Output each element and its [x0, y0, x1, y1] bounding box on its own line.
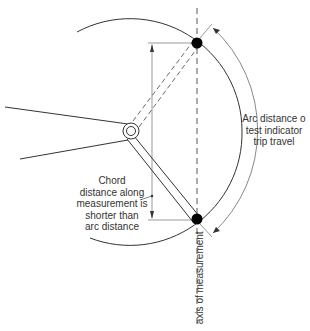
chord-label-line: Chord: [73, 175, 151, 187]
arc-label-line: Arc distance o: [238, 113, 310, 125]
arrowhead-icon: [213, 227, 220, 233]
contact-arm-dashed: [133, 40, 194, 121]
arc-label-line: trip travel: [238, 136, 310, 148]
contact-ball-bottom: [192, 214, 203, 225]
chord-label-line: shorter than: [73, 210, 151, 222]
indicator-body-lower: [20, 140, 128, 159]
arrowhead-icon: [213, 28, 220, 34]
chord-label-line: arc distance: [73, 221, 151, 233]
indicator-body-upper: [5, 107, 128, 124]
indicator-geometry-diagram: [0, 0, 310, 331]
arc-distance-label: Arc distance o test indicator trip trave…: [238, 113, 310, 148]
pivot-inner-icon: [127, 127, 136, 136]
arc-label-line: test indicator: [238, 125, 310, 137]
axis-of-measurement-label: axis of measurement: [194, 228, 206, 328]
chord-distance-label: Chord distance along measurement is shor…: [73, 175, 151, 233]
chord-label-line: measurement is: [73, 198, 151, 210]
contact-arm-dashed: [139, 47, 198, 127]
contact-ball-top: [192, 38, 203, 49]
arrowhead-icon: [150, 44, 154, 52]
chord-label-line: distance along: [73, 187, 151, 199]
